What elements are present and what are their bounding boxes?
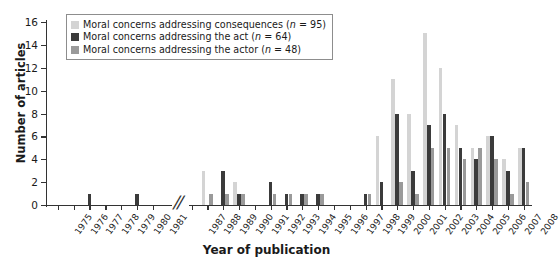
legend-label: Moral concerns addressing the actor (n =… [83, 45, 301, 55]
bar [88, 194, 92, 205]
legend-label: Moral concerns addressing consequences (… [83, 20, 326, 30]
x-tick-mark [207, 205, 208, 210]
x-tick-mark [476, 205, 477, 210]
x-tick-mark [366, 205, 367, 210]
x-tick-mark [318, 205, 319, 210]
y-tick-label: 8 [12, 109, 38, 119]
legend-item: Moral concerns addressing consequences (… [71, 19, 326, 31]
bar [135, 194, 139, 205]
x-tick-mark [137, 205, 138, 210]
x-tick-mark [58, 205, 59, 210]
bar [494, 159, 498, 205]
legend-swatch-icon [71, 21, 79, 29]
x-tick-mark [105, 205, 106, 210]
bar [415, 194, 419, 205]
bar [209, 194, 213, 205]
y-tick-label: 0 [12, 200, 38, 210]
y-tick-label: 16 [12, 17, 38, 27]
bar [380, 182, 384, 205]
x-tick-mark [255, 205, 256, 210]
x-tick-mark [74, 205, 75, 210]
y-tick-label: 10 [12, 86, 38, 96]
bar [431, 148, 435, 205]
bar [304, 194, 308, 205]
bar [368, 194, 372, 205]
bar [289, 194, 293, 205]
bar [526, 182, 530, 205]
x-tick-mark [460, 205, 461, 210]
x-tick-mark [153, 205, 154, 210]
x-tick-mark [223, 205, 224, 210]
x-tick-mark [413, 205, 414, 210]
x-tick-mark [445, 205, 446, 210]
bar [273, 194, 277, 205]
x-tick-mark [286, 205, 287, 210]
bar [463, 159, 467, 205]
legend-item: Moral concerns addressing the actor (n =… [71, 44, 326, 56]
legend-item: Moral concerns addressing the act (n = 6… [71, 31, 326, 43]
x-tick-mark [524, 205, 525, 210]
x-tick-mark [302, 205, 303, 210]
x-tick-mark [121, 205, 122, 210]
x-tick-mark [192, 205, 193, 210]
x-tick-mark [350, 205, 351, 210]
chart-legend: Moral concerns addressing consequences (… [66, 14, 333, 60]
y-tick-label: 6 [12, 131, 38, 141]
bar [241, 194, 245, 205]
x-tick-mark [492, 205, 493, 210]
bar [399, 182, 403, 205]
bar [447, 148, 451, 205]
y-axis-tick-labels: 0246810121416 [8, 22, 38, 205]
bar [320, 194, 324, 205]
legend-swatch-icon [71, 33, 79, 41]
bar [202, 171, 206, 205]
bar [225, 194, 229, 205]
x-axis-title: Year of publication [0, 243, 533, 257]
y-tick-label: 12 [12, 63, 38, 73]
legend-label: Moral concerns addressing the act (n = 6… [83, 32, 291, 42]
y-tick-label: 14 [12, 40, 38, 50]
x-tick-mark [397, 205, 398, 210]
x-tick-mark [429, 205, 430, 210]
y-tick-label: 2 [12, 177, 38, 187]
x-tick-mark [239, 205, 240, 210]
x-tick-mark [89, 205, 90, 210]
x-tick-mark [381, 205, 382, 210]
x-tick-mark [508, 205, 509, 210]
legend-swatch-icon [71, 46, 79, 54]
bar [510, 194, 514, 205]
y-tick-label: 4 [12, 154, 38, 164]
x-tick-mark [334, 205, 335, 210]
bar [478, 148, 482, 205]
x-tick-mark [271, 205, 272, 210]
